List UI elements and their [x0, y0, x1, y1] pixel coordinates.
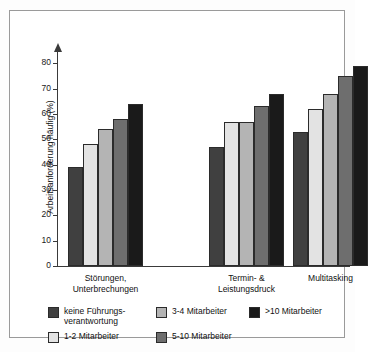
- y-axis-title-text: Arbeitsanforderung häufig (%): [45, 87, 55, 227]
- bar: [113, 119, 128, 266]
- legend-item[interactable]: 3-4 Mitarbeiter: [156, 307, 227, 318]
- bar: [128, 104, 143, 266]
- legend-item[interactable]: >10 Mitarbeiter: [249, 307, 322, 318]
- category-label: Multitasking: [266, 273, 372, 284]
- bar: [293, 132, 308, 266]
- figure-frame: 01020304050607080 Arbeitsanforderung häu…: [9, 10, 345, 338]
- legend-item[interactable]: 1-2 Mitarbeiter: [48, 332, 119, 343]
- bar: [338, 76, 353, 266]
- legend-label: 5-10 Mitarbeiter: [172, 332, 232, 342]
- y-axis-tick-label: 80: [42, 57, 51, 68]
- legend-item[interactable]: keine Führungs-verantwortung: [48, 307, 125, 326]
- bar: [239, 122, 254, 266]
- bar: [353, 66, 368, 266]
- legend-swatch: [48, 307, 59, 318]
- legend-label: 1-2 Mitarbeiter: [64, 332, 119, 342]
- bar: [209, 147, 224, 266]
- bar: [308, 109, 323, 266]
- bar: [98, 129, 113, 266]
- legend-label: 3-4 Mitarbeiter: [172, 307, 227, 317]
- bar: [269, 94, 284, 266]
- legend-swatch: [156, 332, 167, 343]
- y-axis-tick-mark: [53, 266, 57, 267]
- y-axis-title: Arbeitsanforderung häufig (%): [55, 0, 65, 87]
- legend-swatch: [249, 307, 260, 318]
- legend-label: >10 Mitarbeiter: [265, 307, 322, 317]
- bar: [254, 106, 269, 266]
- bar-group: [209, 43, 284, 266]
- legend-label: keine Führungs-verantwortung: [64, 307, 125, 326]
- category-label: Störungen,Unterbrechungen: [41, 273, 171, 294]
- bar: [68, 167, 83, 266]
- bar: [323, 94, 338, 266]
- bar: [224, 122, 239, 266]
- y-axis-tick-mark: [53, 241, 57, 242]
- bar: [83, 144, 98, 266]
- plot-area: 01020304050607080 Arbeitsanforderung häu…: [57, 43, 351, 267]
- y-axis-tick-label: 0: [46, 260, 51, 271]
- x-axis-line: [57, 266, 350, 267]
- legend-swatch: [156, 307, 167, 318]
- legend-swatch: [48, 332, 59, 343]
- legend-item[interactable]: 5-10 Mitarbeiter: [156, 332, 232, 343]
- chart-legend: keine Führungs-verantwortung3-4 Mitarbei…: [48, 307, 348, 347]
- bar-group: [68, 43, 143, 266]
- y-axis-tick-label: 10: [42, 235, 51, 246]
- bar-group: [293, 43, 368, 266]
